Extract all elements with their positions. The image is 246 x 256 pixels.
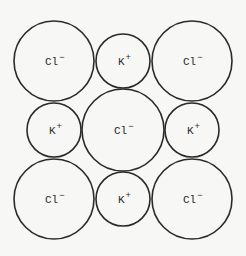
potassium-ion-r2c1: K+ [27, 103, 81, 157]
ion-symbol: K [118, 194, 125, 206]
chloride-ion-r2c2: Cl− [82, 89, 164, 171]
ion-charge: − [197, 53, 202, 63]
ion-charge: + [126, 191, 131, 201]
chloride-ion-r1c1: Cl− [14, 21, 94, 101]
ion-symbol: K [49, 125, 56, 137]
chloride-ion-r3c1: Cl− [14, 159, 94, 239]
ion-symbol: Cl [183, 56, 196, 68]
potassium-ion-r2c3: K+ [165, 103, 219, 157]
potassium-ion-r1c2-label: K+ [118, 53, 131, 68]
chloride-ion-r3c3: Cl− [152, 159, 232, 239]
ion-charge: + [126, 53, 131, 63]
chloride-ion-r2c2-label: Cl− [114, 122, 134, 137]
ion-symbol: K [118, 56, 125, 68]
chloride-ion-r1c3-label: Cl− [183, 53, 203, 68]
potassium-ion-r3c2: K+ [96, 172, 150, 226]
ion-charge: − [59, 191, 64, 201]
chloride-ion-r1c1-label: Cl− [45, 53, 65, 68]
chloride-ion-r3c3-label: Cl− [183, 191, 203, 206]
potassium-ion-r2c3-label: K+ [187, 122, 200, 137]
ion-symbol: Cl [183, 194, 196, 206]
ion-symbol: Cl [114, 125, 127, 137]
ion-charge: − [59, 53, 64, 63]
ion-charge: − [197, 191, 202, 201]
ion-charge: + [57, 122, 62, 132]
ion-symbol: Cl [45, 56, 58, 68]
ion-charge: − [128, 122, 133, 132]
ion-charge: + [195, 122, 200, 132]
potassium-ion-r3c2-label: K+ [118, 191, 131, 206]
ion-symbol: Cl [45, 194, 58, 206]
potassium-ion-r1c2: K+ [96, 34, 150, 88]
chloride-ion-r3c1-label: Cl− [45, 191, 65, 206]
kcl-lattice-diagram: Cl−K+Cl−K+Cl−K+Cl−K+Cl− [0, 0, 246, 256]
chloride-ion-r1c3: Cl− [152, 21, 232, 101]
potassium-ion-r2c1-label: K+ [49, 122, 62, 137]
ion-symbol: K [187, 125, 194, 137]
